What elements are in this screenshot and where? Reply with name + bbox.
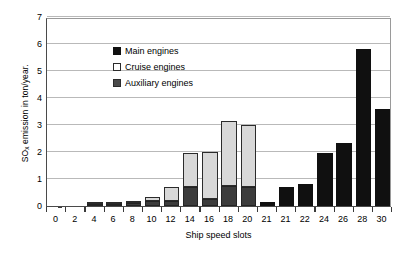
x-tick-mark (295, 207, 296, 212)
y-tick-label: 7 (26, 13, 42, 22)
bar-segment (375, 109, 390, 206)
bar-segment (183, 187, 198, 206)
plot-area: Main engines Cruise engines Auxiliary en… (46, 18, 391, 207)
y-tick-label: 3 (26, 121, 42, 130)
bar-segment (317, 153, 332, 206)
x-tick-mark (199, 207, 200, 212)
x-tick-mark (46, 207, 47, 212)
x-tick-mark (391, 207, 392, 212)
bar-group (145, 197, 160, 206)
bar-segment (87, 204, 102, 206)
bar-group (183, 153, 198, 206)
bar-group (106, 202, 121, 206)
y-tick-label: 2 (26, 148, 42, 157)
bar-group (87, 202, 102, 206)
y-tick-label: 0 (26, 202, 42, 211)
x-tick-mark (65, 207, 66, 212)
x-tick-mark (161, 207, 162, 212)
bar-segment (221, 121, 236, 186)
bar-segment (298, 184, 313, 206)
legend-label-main-engines: Main engines (125, 46, 179, 56)
sox-emission-bar-chart: SOx emission in ton/year. 01234567 Main … (0, 0, 407, 254)
bar-segment (356, 49, 371, 206)
x-tick-mark (238, 207, 239, 212)
legend-item-auxiliary-engines: Auxiliary engines (113, 75, 233, 91)
bar-segment (183, 153, 198, 187)
x-tick-mark (353, 207, 354, 212)
bar-segment (164, 187, 179, 201)
x-tick-mark (314, 207, 315, 212)
bar-group (375, 109, 390, 206)
bar-segment (202, 152, 217, 199)
x-tick-mark (104, 207, 105, 212)
bar-group (336, 143, 351, 206)
y-tick-label: 6 (26, 40, 42, 49)
y-tick-mark (58, 207, 62, 208)
main-swatch-icon (113, 47, 121, 55)
x-tick-mark (276, 207, 277, 212)
bar-group (126, 201, 141, 206)
auxiliary-swatch-icon (113, 79, 121, 87)
y-tick-label: 1 (26, 175, 42, 184)
x-tick-mark (84, 207, 85, 212)
gridline (47, 16, 390, 17)
bar-group (356, 49, 371, 206)
bar-segment (241, 187, 256, 206)
bar-group (164, 187, 179, 206)
bar-segment (164, 201, 179, 206)
y-tick-label: 5 (26, 67, 42, 76)
bar-group (298, 184, 313, 206)
legend-item-cruise-engines: Cruise engines (113, 59, 233, 75)
bar-segment (202, 199, 217, 206)
bar-group (241, 125, 256, 206)
bar-segment (336, 143, 351, 206)
bar-group (279, 187, 294, 206)
legend-label-cruise-engines: Cruise engines (125, 62, 185, 72)
bar-group (221, 121, 236, 206)
x-tick-label: 30 (370, 214, 392, 224)
y-axis-title-rest: emission in ton/year. (20, 64, 30, 146)
bar-segment (241, 125, 256, 187)
bar-segment (126, 203, 141, 206)
x-tick-mark (180, 207, 181, 212)
x-tick-mark (334, 207, 335, 212)
bar-segment (145, 201, 160, 206)
bar-segment (221, 186, 236, 206)
x-tick-mark (257, 207, 258, 212)
x-axis-title: Ship speed slots (46, 230, 391, 240)
cruise-swatch-icon (113, 63, 121, 71)
x-tick-mark (142, 207, 143, 212)
bar-segment (260, 202, 275, 206)
legend-item-main-engines: Main engines (113, 43, 233, 59)
bar-group (202, 152, 217, 206)
legend-label-auxiliary-engines: Auxiliary engines (125, 78, 193, 88)
bar-group (260, 202, 275, 206)
x-tick-mark (219, 207, 220, 212)
y-tick-label: 4 (26, 94, 42, 103)
x-tick-mark (123, 207, 124, 212)
chart-legend: Main engines Cruise engines Auxiliary en… (113, 43, 233, 91)
y-axis-title: SOx emission in ton/year. (20, 28, 31, 198)
bar-group (317, 153, 332, 206)
bar-segment (279, 187, 294, 206)
bar-segment (106, 204, 121, 206)
x-tick-mark (372, 207, 373, 212)
